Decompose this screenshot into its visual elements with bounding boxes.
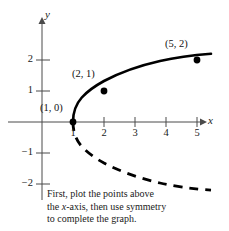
data-point-1-0 bbox=[70, 119, 77, 126]
x-axis-arrowhead bbox=[200, 119, 207, 126]
caption-line-2: the x-axis, then use symmetry bbox=[47, 201, 227, 214]
caption-line-2-post: -axis, then use symmetry bbox=[66, 201, 166, 212]
data-point-5-2 bbox=[194, 57, 201, 64]
curve-upper-solid bbox=[73, 54, 211, 122]
point-label-2-1: (2, 1) bbox=[72, 68, 95, 79]
y-tick-label-1: 1 bbox=[11, 84, 33, 95]
caption-text: First, plot the points above the x-axis,… bbox=[47, 188, 227, 226]
data-point-2-1 bbox=[101, 88, 108, 95]
y-tick-label-neg2: −2 bbox=[11, 177, 33, 188]
caption-line-1: First, plot the points above bbox=[47, 188, 227, 201]
x-tick-label-4: 4 bbox=[159, 127, 173, 138]
y-axis-label: y bbox=[45, 8, 50, 20]
x-axis-label: x bbox=[208, 114, 213, 126]
caption-line-2-pre: the bbox=[47, 201, 62, 212]
x-tick-label-2: 2 bbox=[97, 127, 111, 138]
y-tick-label-2: 2 bbox=[11, 53, 33, 64]
x-tick-label-1: 1 bbox=[66, 127, 80, 138]
caption-line-3: to complete the graph. bbox=[47, 213, 227, 226]
y-tick-label-neg1: −1 bbox=[11, 146, 33, 157]
graph-figure: y x 1 2 3 4 5 2 1 −1 −2 (1, 0) (2, 1) (5… bbox=[0, 0, 229, 231]
x-tick-label-5: 5 bbox=[190, 127, 204, 138]
x-tick-label-3: 3 bbox=[128, 127, 142, 138]
point-label-1-0: (1, 0) bbox=[40, 102, 63, 113]
point-label-5-2: (5, 2) bbox=[165, 38, 188, 49]
